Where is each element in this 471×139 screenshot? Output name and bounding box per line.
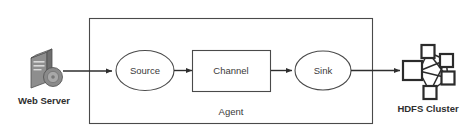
cluster-network-icon (403, 45, 455, 99)
source-label: Source (130, 65, 160, 76)
web-server-label: Web Server (18, 95, 70, 106)
flume-architecture-diagram: Agent Web Server Source Channe (0, 0, 471, 139)
diagram-canvas: Agent Web Server Source Channe (0, 0, 471, 139)
channel-label: Channel (213, 65, 248, 76)
hdfs-cluster-label: HDFS Cluster (397, 103, 459, 114)
agent-label: Agent (219, 106, 244, 117)
server-tower-icon (31, 49, 63, 88)
sink-label: Sink (314, 65, 333, 76)
